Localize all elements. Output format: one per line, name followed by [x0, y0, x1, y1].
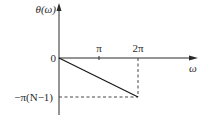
x-axis-label: ω [189, 62, 197, 74]
tick-label-pi: π [96, 42, 102, 54]
tick-label-2pi: 2π [132, 42, 144, 54]
y-axis-label: θ(ω) [36, 3, 57, 16]
origin-label: 0 [51, 52, 57, 64]
phase-response-diagram: θ(ω) ω 0 π 2π −π(N−1) [0, 0, 215, 122]
y-axis-arrow-icon [57, 3, 62, 11]
phase-line [59, 58, 138, 97]
x-axis-arrow-icon [189, 56, 198, 61]
y-min-label: −π(N−1) [14, 91, 53, 104]
x-axis [59, 56, 198, 61]
